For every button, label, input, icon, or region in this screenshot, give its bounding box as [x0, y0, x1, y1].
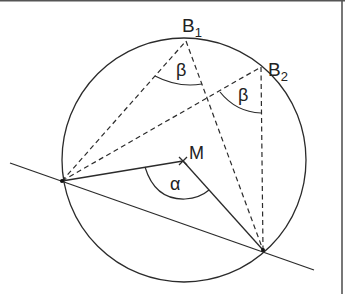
diagram-svg: B1 B2 M α β β: [0, 0, 345, 294]
label-beta-b2: β: [238, 85, 248, 105]
label-b1: B1: [182, 15, 202, 40]
label-beta-b1: β: [176, 60, 186, 80]
point-a: [60, 179, 64, 183]
secant-line: [10, 163, 314, 270]
radius-right: [183, 161, 263, 250]
dashed-a-b1: [62, 41, 186, 181]
label-m: M: [189, 143, 204, 163]
point-c: [261, 248, 265, 252]
inscribed-angle-diagram: B1 B2 M α β β: [0, 0, 345, 294]
dashed-b2-c: [261, 67, 263, 250]
label-b2: B2: [268, 59, 288, 84]
label-alpha: α: [170, 174, 180, 194]
